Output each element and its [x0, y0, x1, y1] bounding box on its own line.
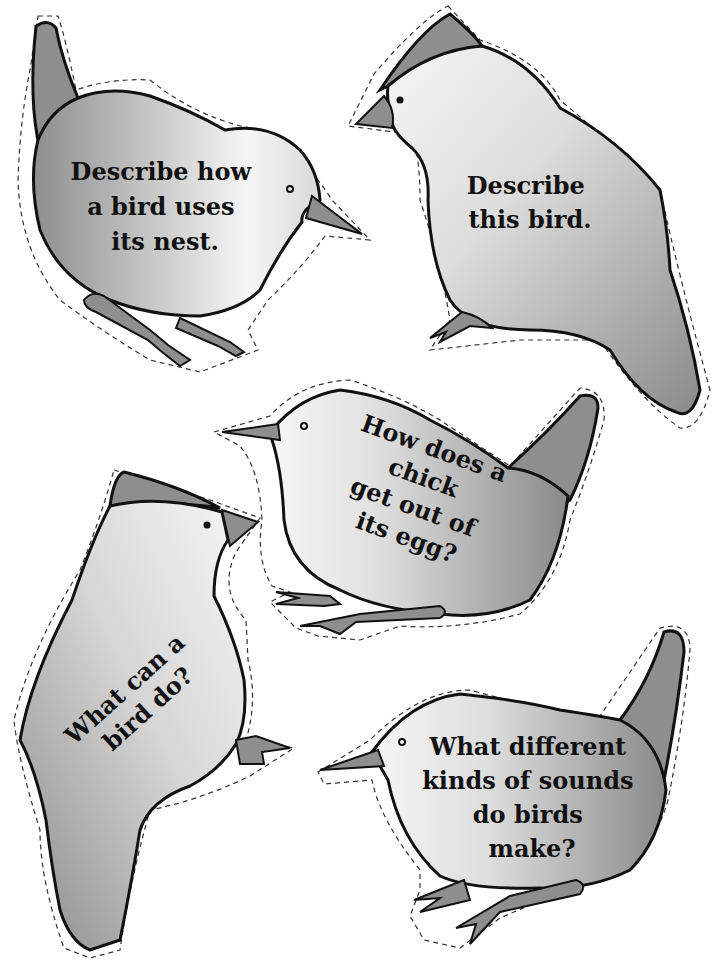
bird-leg: [414, 880, 583, 944]
bird-card-1[interactable]: Describe how a bird uses its nest.: [18, 16, 370, 372]
bird-beak: [356, 96, 393, 128]
bird-card-4[interactable]: What can a bird do?: [14, 470, 294, 958]
bird-card-3[interactable]: How does a chick get out of its egg?: [214, 380, 604, 640]
card-sheet: Describe how a bird uses its nest. Descr…: [0, 0, 721, 975]
bird-beak: [222, 424, 280, 440]
bird-card-2[interactable]: Describe this bird.: [348, 6, 710, 428]
bird-card-5[interactable]: What different kinds of sounds do birds …: [318, 626, 690, 948]
bird-eye: [397, 97, 404, 104]
bird-beak: [320, 750, 384, 770]
bird-eye: [204, 522, 211, 529]
bird-foot: [236, 736, 290, 764]
